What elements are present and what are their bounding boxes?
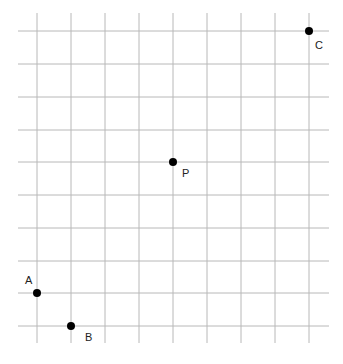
point-a: A xyxy=(25,274,41,297)
grid-lines xyxy=(18,13,329,343)
point-marker xyxy=(67,322,75,330)
point-label: B xyxy=(85,331,92,343)
point-marker xyxy=(169,158,177,166)
point-label: C xyxy=(315,39,323,51)
point-p: P xyxy=(169,158,189,179)
point-marker xyxy=(305,27,313,35)
point-marker xyxy=(33,289,41,297)
points-layer: CPAB xyxy=(25,27,323,343)
grid-diagram: CPAB xyxy=(0,0,343,364)
point-label: P xyxy=(182,167,189,179)
point-label: A xyxy=(25,274,33,286)
